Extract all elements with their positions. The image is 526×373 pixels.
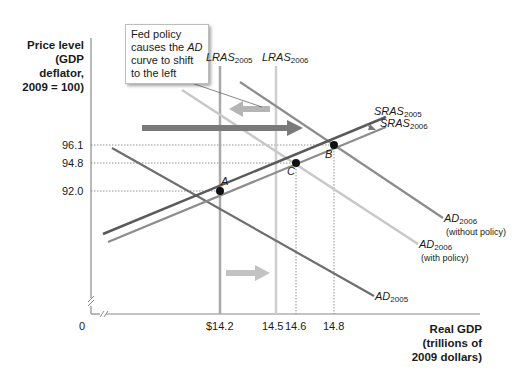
arrow-ad-left	[229, 101, 270, 117]
label-text: SRAS	[380, 117, 410, 129]
point-label-b: B	[325, 148, 332, 160]
x-axis-label-line: Real GDP	[400, 322, 482, 336]
label-ad-2006-without: AD2006	[444, 212, 477, 226]
arrow-ad-right	[142, 120, 303, 136]
label-sub: 2006	[434, 243, 452, 252]
note-line: causes the AD	[131, 41, 203, 54]
label-sub: 2006	[459, 217, 477, 226]
note-line: to the left	[131, 67, 203, 80]
x-tick-origin: 0	[79, 320, 85, 332]
label-lras-2006: LRAS2006	[262, 51, 309, 65]
label-without-policy: (without policy)	[446, 227, 506, 237]
y-axis-label: Price level (GDP deflator, 2009 = 100)	[8, 38, 84, 94]
point-label-c: C	[287, 165, 295, 177]
x-tick-14-2: $14.2	[206, 320, 234, 332]
policy-note: Fed policy causes the AD curve to shift …	[125, 24, 209, 84]
label-sub: 2005	[390, 295, 408, 304]
x-axis-label: Real GDP (trillions of 2009 dollars)	[400, 322, 482, 364]
point-label-a: A	[221, 175, 228, 187]
x-tick-14-5: 14.5	[262, 320, 283, 332]
y-axis-label-line: (GDP	[8, 52, 84, 66]
arrow-sras-shift	[365, 124, 376, 130]
label-text: AD	[419, 238, 434, 250]
note-line: curve to shift	[131, 54, 203, 67]
y-tick-96-1: 96.1	[62, 139, 83, 151]
y-tick-92-0: 92.0	[62, 185, 83, 197]
arrow-lras-right	[226, 265, 270, 281]
note-text-italic: AD	[187, 41, 202, 53]
label-ad-2006-with: AD2006	[419, 238, 452, 252]
x-tick-14-8: 14.8	[323, 320, 344, 332]
x-tick-14-6: 14.6	[285, 320, 306, 332]
label-text: SRAS	[374, 105, 404, 117]
label-text: AD	[444, 212, 459, 224]
label-sras-2006: SRAS2006	[380, 117, 428, 131]
x-axis-label-line: (trillions of	[400, 336, 482, 350]
ad-2006-without-policy-line	[240, 82, 443, 218]
y-axis-label-line: 2009 = 100)	[8, 80, 84, 94]
label-sub: 2005	[235, 56, 253, 65]
label-sub: 2006	[410, 122, 428, 131]
x-axis-label-line: 2009 dollars)	[400, 350, 482, 364]
y-axis-label-line: Price level	[8, 38, 84, 52]
y-axis-label-line: deflator,	[8, 66, 84, 80]
label-with-policy: (with policy)	[421, 253, 469, 263]
label-text: AD	[375, 290, 390, 302]
label-lras-2005: LRAS2005	[206, 51, 253, 65]
label-text: LRAS	[262, 51, 291, 63]
note-line: Fed policy	[131, 28, 203, 41]
label-text: LRAS	[206, 51, 235, 63]
label-ad-2005: AD2005	[375, 290, 408, 304]
point-a	[216, 187, 224, 195]
sras-2005-line	[103, 117, 386, 234]
y-tick-94-8: 94.8	[62, 157, 83, 169]
note-text: causes the	[131, 41, 187, 53]
label-sub: 2006	[291, 56, 309, 65]
